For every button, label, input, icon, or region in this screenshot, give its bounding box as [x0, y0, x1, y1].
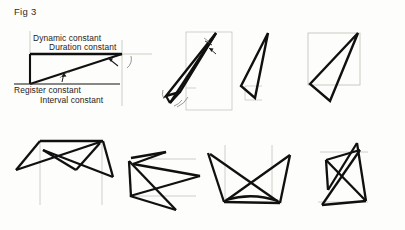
panel-bottom-3 — [208, 145, 290, 203]
panel-bottom-2 — [129, 152, 200, 210]
panel-bottom-1 — [16, 141, 113, 205]
apex-angle-arc — [127, 56, 131, 68]
bot-1-polyline — [16, 141, 113, 177]
label-register-constant: Register constant — [14, 85, 81, 95]
panel-top-3 — [308, 33, 360, 101]
panel-top-1 — [162, 32, 232, 110]
bot-3-polyline — [208, 153, 290, 203]
panel-top-2 — [241, 33, 268, 100]
label-duration-constant: Duration constant — [49, 42, 116, 52]
figure-container: Fig 3 — [0, 0, 405, 230]
label-interval-constant: Interval constant — [40, 95, 103, 105]
top-2-triangle — [241, 33, 268, 98]
top-1-lower-left-edge — [166, 96, 170, 103]
top-3-triangle — [310, 33, 358, 101]
bot-2-polyline — [129, 152, 200, 210]
panel-bottom-4 — [318, 143, 368, 205]
